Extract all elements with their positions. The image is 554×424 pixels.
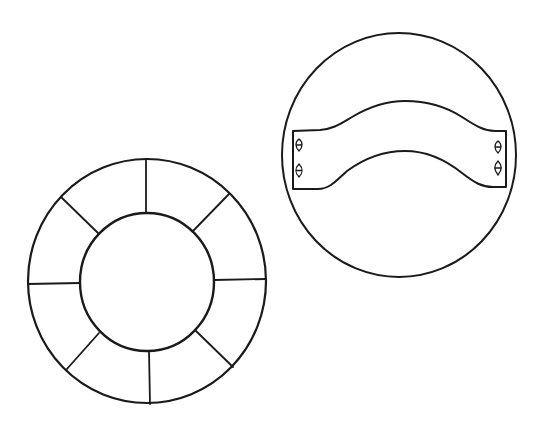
spoke-top-left [61,197,98,233]
slot-right-lower [495,161,501,175]
spoke-bottom-left [66,333,99,370]
ring-outer-circle [28,159,266,403]
slot-left-lower [296,164,302,177]
strap-slots [296,139,501,177]
slot-right-upper [495,141,501,153]
ring-inner-circle [80,213,214,351]
spoke-bottom-right [196,331,233,367]
spoke-bottom [149,351,150,404]
diagram-canvas [0,0,554,424]
strap-outer-circle [282,33,516,277]
segmented-ring-figure [28,159,266,404]
spoke-left [28,283,80,284]
curved-strap-figure [282,33,516,277]
curved-strap-outline [293,101,506,189]
spoke-right [214,279,266,280]
slot-left-upper [296,139,302,151]
spoke-top-right [193,194,229,231]
